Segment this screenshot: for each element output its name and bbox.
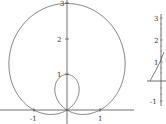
x-tick-label: 1 [98,115,102,123]
chart-canvas: -1 1 1 2 3 3 2 1 -1 [0,0,166,124]
y-tick-label: 2 [57,36,61,44]
y-tick-label-2: 1 [154,59,158,67]
y-tick-label-2: 3 [154,15,158,23]
x-tick-label: -1 [30,115,37,123]
y-tick-label-2: -1 [150,98,157,106]
y-tick-label-2: 2 [154,37,158,45]
